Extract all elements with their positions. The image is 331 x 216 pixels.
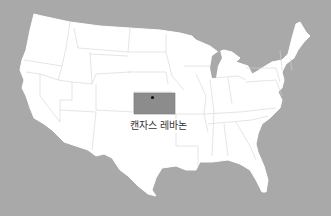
kansas-state	[134, 93, 175, 114]
location-marker-dot	[151, 96, 154, 99]
us-map	[0, 0, 331, 216]
location-label: 캔자스 레바논	[128, 119, 189, 133]
